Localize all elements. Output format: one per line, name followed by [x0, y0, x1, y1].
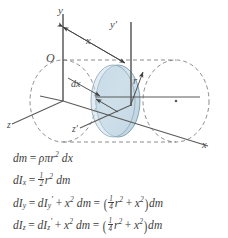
dimension-x — [63, 27, 125, 63]
distance-label-x: x — [85, 35, 91, 46]
axis-label-y-prime: y′ — [109, 19, 118, 30]
equation-dm: dm=ρπr2 dx — [13, 144, 228, 166]
axis-label-y: y — [57, 4, 63, 16]
equation-dIz: dIz=dIz′+x2 dm=(14r2+x2)dm — [13, 210, 228, 232]
cylinder-diagram: y x z y′ z′ O x dx r — [0, 0, 228, 150]
thickness-label-dx: dx — [71, 78, 81, 89]
origin-label: O — [46, 51, 55, 65]
equation-dIy: dIy=dIy′+x2 dm=(14r2+x2)dm — [13, 188, 228, 210]
figure-container: y x z y′ z′ O x dx r dm=ρπr2 dx dIx=12r2… — [0, 0, 228, 238]
axis-label-z: z — [6, 120, 11, 130]
equation-list: dm=ρπr2 dx dIx=12r2 dm dIy=dIy′+x2 dm=(1… — [0, 144, 228, 238]
axis-label-z-prime: z′ — [71, 124, 79, 134]
equation-dIx: dIx=12r2 dm — [13, 166, 228, 188]
